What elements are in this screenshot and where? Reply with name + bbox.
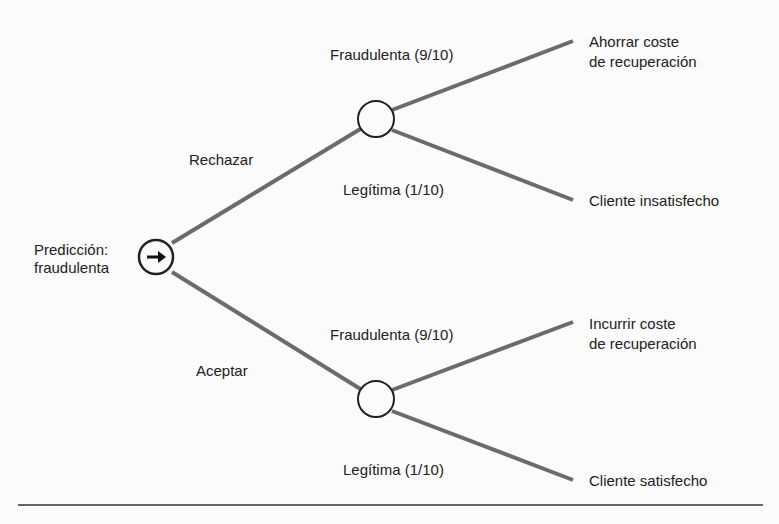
reject-legit-result: Cliente insatisfecho (589, 191, 719, 210)
accept-fraud-result-line1: Incurrir coste (589, 314, 676, 333)
branch-accept-label: Aceptar (196, 361, 248, 380)
accept-fraud-label: Fraudulenta (9/10) (330, 325, 453, 344)
accept-fraud-result-line2: de recuperación (589, 334, 697, 353)
reject-fraud-result-line1: Ahorrar coste (589, 32, 679, 51)
decision-tree-graphic (0, 0, 779, 524)
chance-node-accept (358, 381, 394, 417)
root-label-line2: fraudulenta (34, 258, 109, 277)
chance-node-reject (358, 101, 394, 137)
reject-legit-label: Legítima (1/10) (343, 180, 444, 199)
accept-legit-label: Legítima (1/10) (343, 460, 444, 479)
branch-reject-line (172, 128, 362, 243)
root-label-line1: Predicción: (34, 240, 108, 259)
reject-fraud-result-line2: de recuperación (589, 52, 697, 71)
decision-node (139, 240, 173, 274)
accept-legit-result: Cliente satisfecho (589, 471, 707, 490)
branch-reject-label: Rechazar (189, 150, 253, 169)
reject-fraud-label: Fraudulenta (9/10) (330, 45, 453, 64)
